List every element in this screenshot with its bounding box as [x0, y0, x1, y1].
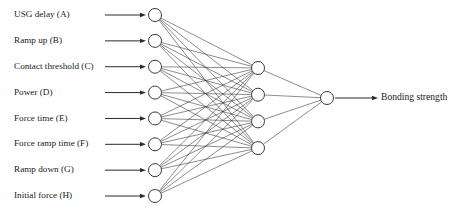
input-node-C — [149, 60, 162, 73]
hidden-node-H3 — [252, 115, 265, 128]
input-node-A — [149, 9, 162, 22]
diagram-background — [0, 0, 465, 219]
input-label-D: Power (D) — [14, 87, 53, 97]
output-nodes-group — [321, 92, 334, 105]
input-node-E — [149, 112, 162, 125]
input-label-C: Contact threshold (C) — [14, 61, 94, 71]
input-node-B — [149, 34, 162, 47]
neural-network-diagram: USG delay (A)Ramp up (B)Contact threshol… — [0, 0, 465, 219]
hidden-node-H1 — [252, 62, 265, 75]
hidden-node-H2 — [252, 88, 265, 101]
input-label-A: USG delay (A) — [14, 9, 70, 19]
input-label-F: Force ramp time (F) — [14, 138, 88, 148]
output-labels-group: Bonding strength — [381, 91, 448, 102]
input-node-D — [149, 86, 162, 99]
input-node-G — [149, 164, 162, 177]
input-node-H — [149, 190, 162, 203]
output-node-O1 — [321, 92, 334, 105]
input-node-F — [149, 138, 162, 151]
input-label-E: Force time (E) — [14, 113, 68, 123]
input-label-H: Initial force (H) — [14, 190, 72, 200]
input-label-G: Ramp down (G) — [14, 164, 74, 174]
input-label-B: Ramp up (B) — [14, 35, 62, 45]
network-canvas: USG delay (A)Ramp up (B)Contact threshol… — [0, 0, 465, 219]
hidden-node-H4 — [252, 142, 265, 155]
output-label-O1: Bonding strength — [381, 91, 448, 102]
